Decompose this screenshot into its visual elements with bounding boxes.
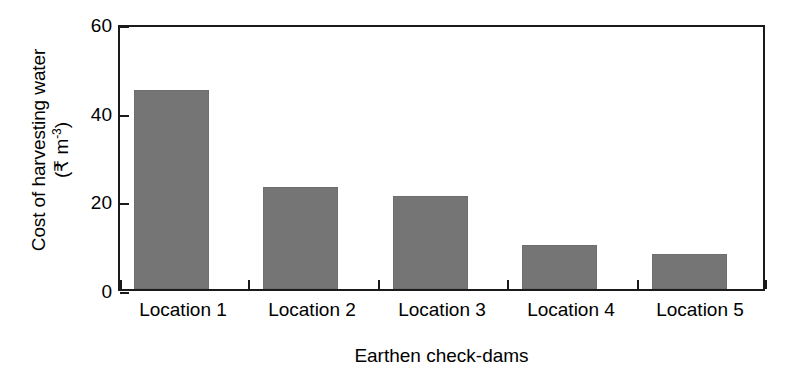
- bar-chart-figure: Cost of harvesting water (₹ m-3) 0204060…: [0, 0, 793, 386]
- y-axis-title-line-1: Cost of harvesting water: [27, 49, 50, 251]
- x-axis-tick-mark: [765, 280, 767, 289]
- bar-4: [522, 245, 597, 289]
- y-axis-tick-mark: [120, 115, 129, 117]
- bar-5: [652, 254, 727, 289]
- y-axis-tick-label: 60: [66, 16, 112, 35]
- y-axis-tick-mark: [120, 292, 129, 294]
- y-axis-tick-mark: [120, 203, 129, 205]
- x-axis-tick-labels: Location 1Location 2Location 3Location 4…: [118, 299, 765, 325]
- x-axis-tick-label-5: Location 5: [656, 299, 744, 321]
- x-axis-tick-mark: [637, 280, 639, 289]
- y-axis-tick-labels: 0204060: [62, 25, 112, 291]
- x-axis-tick-mark: [378, 280, 380, 289]
- x-axis-tick-label-3: Location 3: [398, 299, 486, 321]
- y-axis-tick-label: 20: [66, 193, 112, 212]
- x-axis-tick-label-2: Location 2: [268, 299, 356, 321]
- x-axis-tick-mark: [120, 280, 122, 289]
- x-axis-tick-mark: [507, 280, 509, 289]
- x-axis-tick-mark: [248, 280, 250, 289]
- x-axis-title: Earthen check-dams: [118, 345, 765, 367]
- plot-area: [118, 25, 765, 291]
- bar-2: [263, 187, 338, 289]
- y-axis-tick-mark: [120, 26, 129, 28]
- y-axis-tick-label: 0: [66, 282, 112, 301]
- x-axis-tick-label-4: Location 4: [527, 299, 615, 321]
- bar-1: [134, 90, 209, 290]
- bar-3: [393, 196, 468, 289]
- y-axis-tick-label: 40: [66, 104, 112, 123]
- x-axis-tick-label-1: Location 1: [139, 299, 227, 321]
